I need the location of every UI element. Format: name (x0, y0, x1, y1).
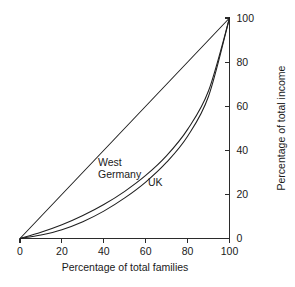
x-tick-label: 80 (182, 245, 194, 257)
series-group (20, 18, 230, 239)
x-tick-label: 40 (98, 245, 110, 257)
series-line-line-of-equality (20, 18, 230, 239)
y-tick-label: 80 (237, 56, 249, 68)
lorenz-curve-chart: 020406080100 020406080100 West Germany U… (0, 0, 295, 287)
west-germany-label-line1: West (98, 156, 122, 168)
y-tick-label: 60 (237, 100, 249, 112)
y-tick-label: 20 (237, 188, 249, 200)
x-axis-title: Percentage of total families (62, 261, 189, 273)
x-tick-label: 100 (221, 245, 239, 257)
west-germany-label-line2: Germany (98, 168, 142, 180)
x-axis-ticks: 020406080100 (17, 239, 238, 257)
y-tick-label: 40 (237, 144, 249, 156)
series-annotations: West Germany UK (98, 156, 163, 188)
y-tick-label: 100 (237, 12, 255, 24)
y-tick-label: 0 (237, 232, 243, 244)
uk-label: UK (148, 176, 163, 188)
x-tick-label: 0 (17, 245, 23, 257)
x-tick-label: 60 (140, 245, 152, 257)
y-axis-title: Percentage of total income (275, 65, 287, 190)
chart-canvas: 020406080100 020406080100 West Germany U… (0, 0, 295, 287)
x-tick-label: 20 (56, 245, 68, 257)
